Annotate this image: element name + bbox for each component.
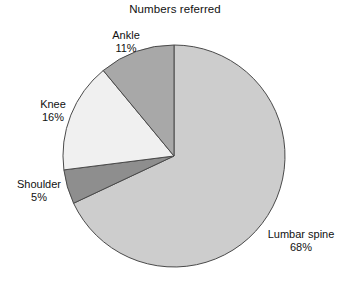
slice-label-knee-percent: 16% — [31, 111, 75, 124]
slice-label-ankle: Ankle 11% — [103, 29, 149, 55]
slice-label-lumbar-spine-percent: 68% — [258, 241, 344, 254]
slice-label-lumbar-spine-name: Lumbar spine — [258, 228, 344, 241]
pie-chart-figure: Numbers referred Ankle 11% Knee 16% Shou… — [0, 0, 350, 283]
slice-label-ankle-name: Ankle — [103, 29, 149, 42]
slice-label-shoulder-name: Shoulder — [8, 178, 70, 191]
slice-label-shoulder: Shoulder 5% — [8, 178, 70, 204]
pie-slice-group — [63, 45, 285, 267]
slice-label-shoulder-percent: 5% — [8, 191, 70, 204]
slice-label-lumbar-spine: Lumbar spine 68% — [258, 228, 344, 254]
slice-label-ankle-percent: 11% — [103, 42, 149, 55]
slice-label-knee: Knee 16% — [31, 98, 75, 124]
slice-label-knee-name: Knee — [31, 98, 75, 111]
